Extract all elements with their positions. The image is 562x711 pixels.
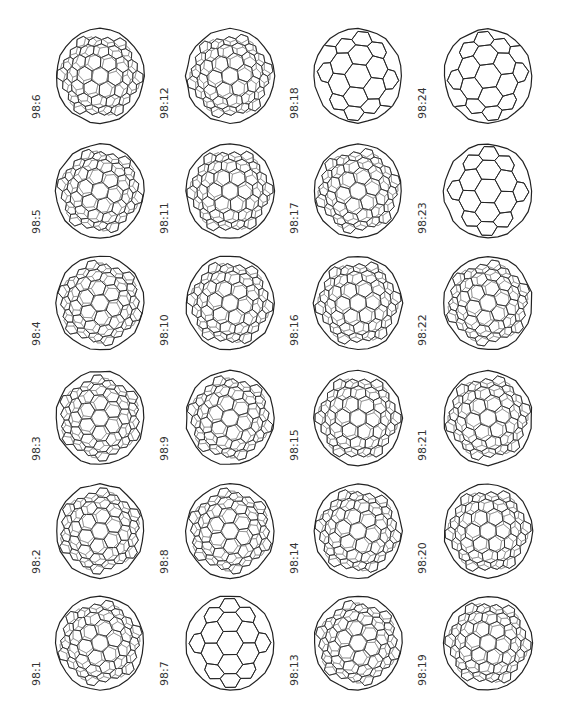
isomer-cell: 98:23 bbox=[416, 140, 546, 256]
isomer-cell: 98:19 bbox=[416, 592, 546, 708]
isomer-label: 98:10 bbox=[158, 314, 171, 346]
isomer-cell: 98:11 bbox=[158, 140, 288, 256]
isomer-label: 98:22 bbox=[416, 314, 429, 346]
isomer-cell: 98:18 bbox=[288, 25, 418, 141]
fullerene-cage-icon bbox=[440, 25, 536, 131]
fullerene-cage-icon bbox=[52, 367, 148, 473]
fullerene-cage-icon bbox=[440, 252, 536, 358]
isomer-label: 98:18 bbox=[288, 87, 301, 119]
fullerene-cage-icon bbox=[182, 252, 278, 358]
isomer-label: 98:15 bbox=[288, 429, 301, 461]
isomer-cell: 98:22 bbox=[416, 252, 546, 368]
isomer-label: 98:5 bbox=[30, 209, 43, 234]
isomer-label: 98:14 bbox=[288, 542, 301, 574]
isomer-label: 98:16 bbox=[288, 314, 301, 346]
isomer-label: 98:24 bbox=[416, 87, 429, 119]
isomer-cell: 98:1 bbox=[30, 592, 160, 708]
fullerene-cage-icon bbox=[52, 252, 148, 358]
fullerene-cage-icon bbox=[310, 367, 406, 473]
fullerene-cage-icon bbox=[52, 592, 148, 698]
fullerene-cage-icon bbox=[182, 367, 278, 473]
isomer-cell: 98:15 bbox=[288, 367, 418, 483]
isomer-cell: 98:7 bbox=[158, 592, 288, 708]
isomer-cell: 98:21 bbox=[416, 367, 546, 483]
isomer-label: 98:7 bbox=[158, 661, 171, 686]
isomer-cell: 98:9 bbox=[158, 367, 288, 483]
isomer-cell: 98:12 bbox=[158, 25, 288, 141]
isomer-cell: 98:2 bbox=[30, 480, 160, 596]
isomer-label: 98:3 bbox=[30, 436, 43, 461]
fullerene-cage-icon bbox=[310, 252, 406, 358]
isomer-label: 98:4 bbox=[30, 321, 43, 346]
isomer-label: 98:17 bbox=[288, 202, 301, 234]
isomer-label: 98:13 bbox=[288, 654, 301, 686]
isomer-cell: 98:17 bbox=[288, 140, 418, 256]
fullerene-cage-icon bbox=[440, 592, 536, 698]
fullerene-cage-icon bbox=[182, 480, 278, 586]
isomer-cell: 98:10 bbox=[158, 252, 288, 368]
fullerene-cage-icon bbox=[440, 480, 536, 586]
fullerene-cage-icon bbox=[440, 140, 536, 246]
fullerene-cage-icon bbox=[182, 592, 278, 698]
isomer-label: 98:1 bbox=[30, 661, 43, 686]
isomer-cell: 98:13 bbox=[288, 592, 418, 708]
isomer-label: 98:11 bbox=[158, 202, 171, 234]
isomer-label: 98:20 bbox=[416, 542, 429, 574]
fullerene-cage-icon bbox=[182, 140, 278, 246]
isomer-cell: 98:6 bbox=[30, 25, 160, 141]
isomer-cell: 98:14 bbox=[288, 480, 418, 596]
fullerene-cage-icon bbox=[310, 140, 406, 246]
isomer-cell: 98:24 bbox=[416, 25, 546, 141]
isomer-label: 98:23 bbox=[416, 202, 429, 234]
isomer-cell: 98:8 bbox=[158, 480, 288, 596]
fullerene-cage-icon bbox=[182, 25, 278, 131]
isomer-label: 98:8 bbox=[158, 549, 171, 574]
fullerene-cage-icon bbox=[310, 592, 406, 698]
isomer-label: 98:9 bbox=[158, 436, 171, 461]
isomer-grid: 98:698:1298:1898:2498:598:1198:1798:2398… bbox=[0, 0, 562, 711]
isomer-label: 98:19 bbox=[416, 654, 429, 686]
isomer-cell: 98:4 bbox=[30, 252, 160, 368]
isomer-label: 98:6 bbox=[30, 94, 43, 119]
isomer-cell: 98:3 bbox=[30, 367, 160, 483]
fullerene-cage-icon bbox=[52, 140, 148, 246]
fullerene-cage-icon bbox=[310, 25, 406, 131]
fullerene-cage-icon bbox=[52, 25, 148, 131]
fullerene-cage-icon bbox=[310, 480, 406, 586]
fullerene-cage-icon bbox=[440, 367, 536, 473]
isomer-label: 98:12 bbox=[158, 87, 171, 119]
isomer-label: 98:21 bbox=[416, 429, 429, 461]
isomer-cell: 98:20 bbox=[416, 480, 546, 596]
fullerene-cage-icon bbox=[52, 480, 148, 586]
isomer-label: 98:2 bbox=[30, 549, 43, 574]
isomer-cell: 98:16 bbox=[288, 252, 418, 368]
isomer-cell: 98:5 bbox=[30, 140, 160, 256]
